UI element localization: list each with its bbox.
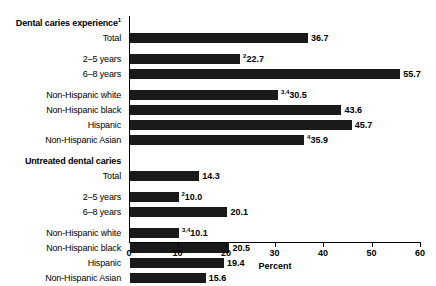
bar [130, 135, 304, 145]
row-label: Total [0, 31, 125, 46]
x-axis-tick-label: 10 [163, 248, 193, 258]
row-label: Total [0, 169, 125, 184]
x-axis-tick-label: 30 [260, 248, 290, 258]
chart-bar-row: Non-Hispanic white3,430.5 [0, 88, 436, 103]
row-label: Non-Hispanic Asian [0, 271, 125, 286]
bar [130, 171, 199, 181]
x-axis-tick [323, 243, 324, 247]
bar-value-label: 222.7 [240, 52, 264, 67]
bar-value-label: 3,410.1 [179, 226, 208, 241]
bar [130, 273, 206, 283]
x-axis-tick [372, 243, 373, 247]
row-label: Hispanic [0, 256, 125, 271]
row-label: Dental caries experience1 [0, 16, 125, 31]
chart-bar-row: 6–8 years55.7 [0, 67, 436, 82]
footnote-marker: 3,4 [281, 89, 289, 95]
chart-group-heading-row: Dental caries experience1 [0, 16, 436, 31]
x-axis-tick-label: 50 [357, 248, 387, 258]
bar-track: 45.7 [130, 118, 436, 133]
bar-value-label: 435.9 [304, 133, 328, 148]
row-label: 6–8 years [0, 67, 125, 82]
row-label: 2–5 years [0, 190, 125, 205]
chart-bar-row: Hispanic45.7 [0, 118, 436, 133]
x-axis-tick [275, 243, 276, 247]
bar [130, 69, 400, 79]
x-axis-tick [420, 243, 421, 247]
row-label: Non-Hispanic white [0, 226, 125, 241]
bar-value-label: 36.7 [308, 31, 329, 46]
chart-bar-row: 6–8 years20.1 [0, 205, 436, 220]
chart-bar-row: Total36.7 [0, 31, 436, 46]
chart-bar-row: Non-Hispanic Asian435.9 [0, 133, 436, 148]
bar-track: 210.0 [130, 190, 436, 205]
chart-bar-row: Total14.3 [0, 169, 436, 184]
x-axis-tick-label: 40 [308, 248, 338, 258]
bar-track: 15.6 [130, 271, 436, 286]
bar-track: 222.7 [130, 52, 436, 67]
row-label: Hispanic [0, 118, 125, 133]
chart-bar-row: Non-Hispanic black43.6 [0, 103, 436, 118]
bar-track: 3,410.1 [130, 226, 436, 241]
bar-value-label: 3,430.5 [278, 88, 307, 103]
footnote-marker: 2 [182, 191, 185, 197]
bar-track: 36.7 [130, 31, 436, 46]
row-label: Non-Hispanic black [0, 103, 125, 118]
row-label: Non-Hispanic white [0, 88, 125, 103]
bar-value-label: 43.6 [341, 103, 362, 118]
bar [130, 207, 227, 217]
bar [130, 120, 352, 130]
bar [130, 33, 308, 43]
bar-value-label: 45.7 [352, 118, 373, 133]
bar-track: 55.7 [130, 67, 436, 82]
footnote-marker: 1 [118, 17, 121, 23]
bar-track: 435.9 [130, 133, 436, 148]
x-axis-tick-label: 0 [114, 248, 144, 258]
row-label: Non-Hispanic black [0, 241, 125, 256]
bar [130, 228, 179, 238]
x-axis-tick-label: 60 [405, 248, 435, 258]
footnote-marker: 3,4 [182, 227, 190, 233]
bar-track: 3,430.5 [130, 88, 436, 103]
footnote-marker: 2 [243, 53, 246, 59]
bar-value-label: 55.7 [400, 67, 421, 82]
bar [130, 90, 278, 100]
chart-bar-row: Non-Hispanic white3,410.1 [0, 226, 436, 241]
x-axis-tick [178, 243, 179, 247]
footnote-marker: 4 [307, 134, 310, 140]
chart-group-heading-row: Untreated dental caries [0, 154, 436, 169]
bar [130, 105, 341, 115]
bar-track: 43.6 [130, 103, 436, 118]
bar-value-label: 14.3 [199, 169, 220, 184]
chart-bar-row: 2–5 years222.7 [0, 52, 436, 67]
row-label: Non-Hispanic Asian [0, 133, 125, 148]
bar-value-label: 15.6 [206, 271, 227, 286]
row-label: 2–5 years [0, 52, 125, 67]
bar [130, 192, 179, 202]
row-label: Untreated dental caries [0, 154, 125, 169]
bar [130, 54, 240, 64]
chart-bar-row: 2–5 years210.0 [0, 190, 436, 205]
x-axis-tick [226, 243, 227, 247]
bar-value-label: 20.1 [227, 205, 248, 220]
chart-bar-row: Non-Hispanic Asian15.6 [0, 271, 436, 286]
x-axis-tick-label: 20 [211, 248, 241, 258]
x-axis-title: Percent [129, 261, 421, 271]
bar-track: 20.1 [130, 205, 436, 220]
bar-track: 14.3 [130, 169, 436, 184]
bar-value-label: 210.0 [179, 190, 203, 205]
row-label: 6–8 years [0, 205, 125, 220]
